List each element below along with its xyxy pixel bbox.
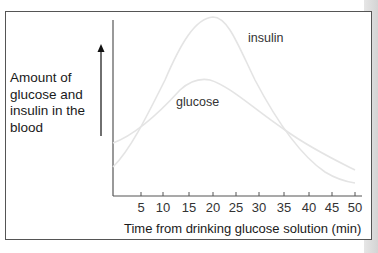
y-axis-label: Amount of glucose and insulin in the blo… (10, 70, 100, 136)
y-axis-label-line: glucose and (10, 87, 100, 104)
y-axis-label-line: Amount of (10, 70, 100, 87)
x-tick-label: 15 (182, 200, 196, 215)
y-axis-label-line: blood (10, 120, 100, 137)
x-tick-label: 45 (325, 200, 339, 215)
insulin-curve (113, 17, 355, 183)
x-tick-label: 10 (156, 200, 170, 215)
up-arrow-icon (98, 44, 105, 52)
x-tick-label: 35 (277, 200, 291, 215)
x-tick-label: 50 (348, 200, 362, 215)
y-axis-label-line: insulin in the (10, 103, 100, 120)
x-tick-label: 20 (206, 200, 220, 215)
glucose-curve (113, 79, 355, 170)
x-tick-label: 5 (137, 200, 144, 215)
x-tick-label: 25 (229, 200, 243, 215)
x-tick-label: 40 (302, 200, 316, 215)
glucose-label: glucose (176, 95, 219, 109)
insulin-label: insulin (248, 31, 283, 45)
x-axis-label: Time from drinking glucose solution (min… (124, 221, 361, 236)
x-tick-label: 30 (252, 200, 266, 215)
